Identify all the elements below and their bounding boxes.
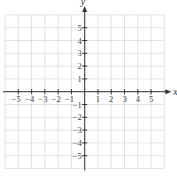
y-tick-label: 4: [77, 36, 82, 46]
x-tick-label: −2: [52, 94, 61, 104]
y-tick-label: 3: [77, 48, 81, 58]
y-tick-label: −2: [73, 112, 82, 122]
x-axis-label: x: [172, 86, 177, 97]
y-axis-label: y: [80, 0, 86, 7]
x-tick-label: 3: [122, 94, 126, 104]
x-tick-label: −3: [38, 94, 47, 104]
y-tick-label: 2: [77, 61, 81, 71]
x-tick-label: 2: [109, 94, 113, 104]
axes: [3, 6, 171, 171]
x-tick-label: −5: [12, 94, 21, 104]
y-tick-label: 1: [77, 74, 81, 84]
y-tick-label: −3: [73, 125, 82, 135]
x-axis-arrow-icon: [165, 89, 171, 94]
y-tick-label: 5: [77, 23, 81, 33]
x-tick-label: 4: [136, 94, 141, 104]
x-tick-label: 1: [96, 94, 100, 104]
x-tick-label: −4: [25, 94, 35, 104]
coordinate-plane: −5−4−3−2−112345−5−4−3−2−112345 x y: [0, 0, 177, 176]
y-tick-label: −4: [73, 138, 83, 148]
y-tick-label: −1: [73, 100, 82, 110]
x-tick-label: 5: [149, 94, 153, 104]
y-tick-label: −5: [73, 151, 82, 161]
